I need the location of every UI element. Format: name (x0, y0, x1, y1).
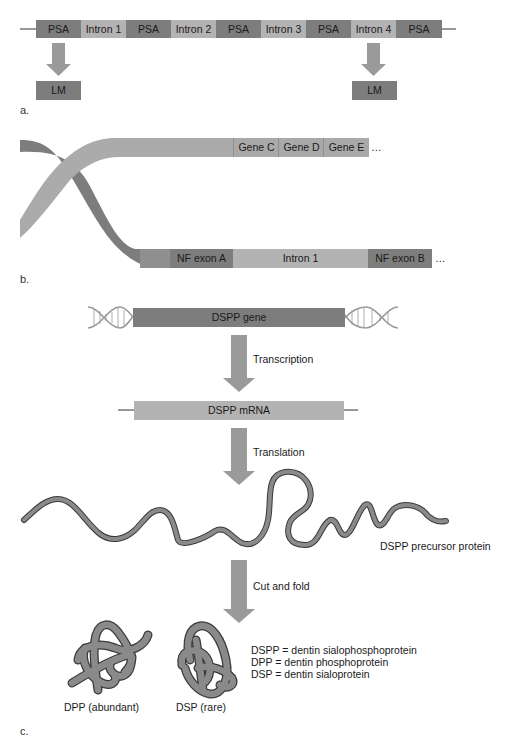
gene-c-segment: Gene C (233, 138, 279, 157)
nf-exon-b-segment: NF exon B (368, 249, 432, 268)
bottom-strand-continuation: … (435, 252, 446, 264)
top-strand-band (110, 138, 233, 157)
dpp-folded-protein (72, 625, 148, 690)
translation-arrow-icon (223, 428, 255, 485)
dna-helix-icon (88, 307, 134, 328)
diagram-graphics (0, 0, 509, 751)
legend-line-dpp: DPP = dentin phosphoprotein (251, 656, 388, 668)
panel-label-c: c. (20, 725, 29, 737)
panel-label-a: a. (20, 104, 29, 116)
dna-helix-icon (345, 307, 398, 328)
transcription-label: Transcription (253, 353, 313, 365)
dspp-gene-bar: DSPP gene (133, 308, 345, 327)
precursor-protein-label: DSPP precursor protein (380, 540, 491, 552)
dpp-label: DPP (abundant) (64, 701, 139, 713)
gene-d-segment: Gene D (278, 138, 324, 157)
segment-intron-2: Intron 2 (171, 20, 216, 38)
segment-psa-exon: PSA (396, 20, 442, 38)
segment-psa-exon: PSA (216, 20, 261, 38)
precursor-protein-chain (24, 472, 446, 545)
gene-e-segment: Gene E (323, 138, 369, 157)
dsp-folded-protein (182, 626, 233, 694)
segment-intron-1: Intron 1 (81, 20, 126, 38)
dsp-label: DSP (rare) (176, 701, 226, 713)
translation-label: Translation (253, 446, 305, 458)
legend-line-dspp: DSPP = dentin sialophosphoprotein (251, 644, 417, 656)
segment-psa-exon: PSA (36, 20, 81, 38)
cut-and-fold-label: Cut and fold (253, 580, 310, 592)
legend-line-dsp: DSP = dentin sialoprotein (251, 668, 370, 680)
segment-psa-exon: PSA (126, 20, 171, 38)
product-lm-box: LM (36, 81, 81, 100)
segment-psa-exon: PSA (306, 20, 351, 38)
transcription-arrow-icon (223, 335, 255, 392)
segment-intron-3: Intron 3 (261, 20, 306, 38)
dspp-mrna-bar: DSPP mRNA (134, 401, 344, 420)
panel-label-b: b. (20, 273, 29, 285)
top-strand-continuation: … (371, 141, 382, 153)
bottom-strand-band (140, 249, 170, 268)
intron-1-segment: Intron 1 (233, 249, 368, 268)
segment-intron-4: Intron 4 (351, 20, 396, 38)
down-arrow-icon (46, 43, 71, 76)
nf-exon-a-segment: NF exon A (170, 249, 233, 268)
cut-fold-arrow-icon (223, 560, 255, 623)
product-lm-box: LM (352, 81, 397, 100)
down-arrow-icon (361, 43, 386, 76)
